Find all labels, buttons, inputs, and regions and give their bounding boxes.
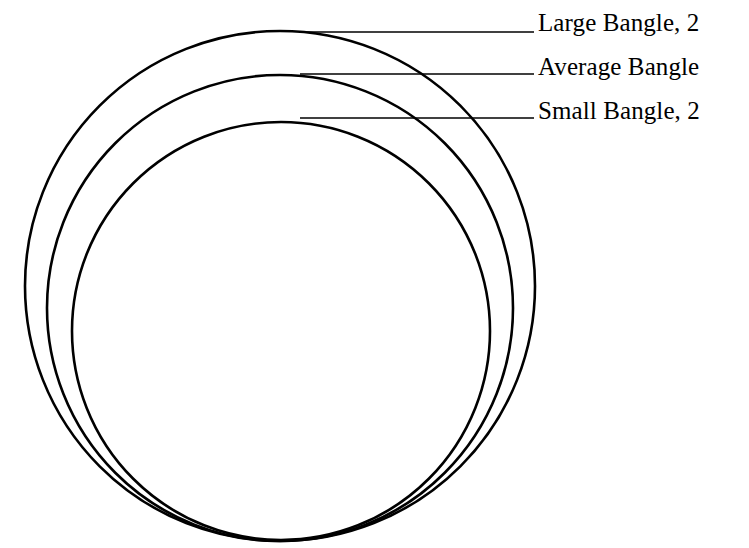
bangle-diagram (0, 0, 749, 548)
figure-canvas: Large Bangle, 2 Average Bangle Small Ban… (0, 0, 749, 548)
canvas-background (0, 0, 749, 548)
